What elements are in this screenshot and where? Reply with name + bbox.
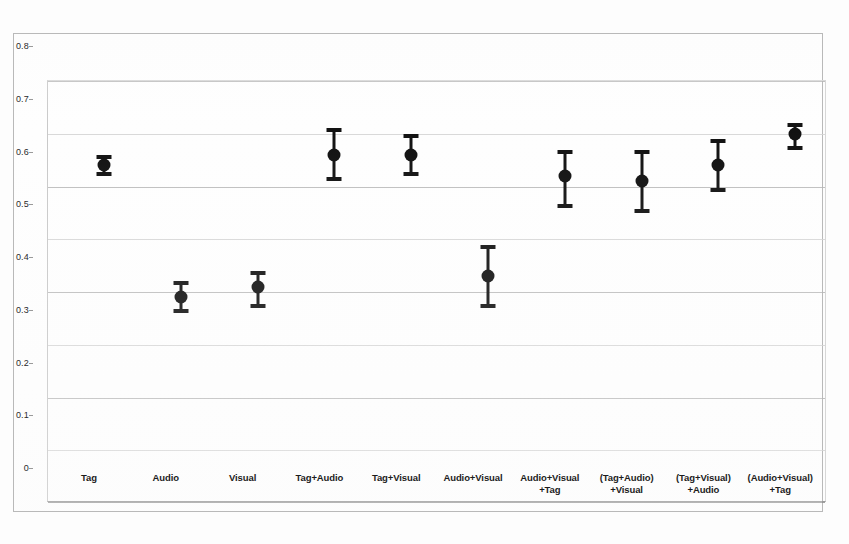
y-tick-label: 0.4 — [0, 252, 29, 262]
error-bar-cap-upper — [404, 134, 419, 138]
data-point-group — [557, 81, 573, 503]
y-tick-label: 0.6 — [0, 147, 29, 157]
x-tick-label: (Tag+Audio)+Visual — [585, 472, 669, 496]
error-bar-cap-lower — [327, 177, 342, 181]
data-series-layer — [48, 81, 825, 501]
error-bar-cap-upper — [250, 271, 265, 275]
error-bar-cap-lower — [404, 172, 419, 176]
x-tick-label-line2: +Tag — [738, 484, 822, 496]
error-bar-cap-upper — [481, 245, 496, 249]
y-tick-mark — [29, 310, 33, 311]
y-tick-mark — [29, 257, 33, 258]
x-tick-label-line1: Audio+Visual — [443, 472, 502, 483]
y-tick-label: 0 — [0, 463, 29, 473]
x-tick-label-line1: Tag+Audio — [296, 472, 344, 483]
x-tick-label: Tag — [47, 472, 131, 484]
mean-marker — [635, 175, 648, 188]
error-bar-cap-upper — [711, 139, 726, 143]
x-tick-label-line1: Tag+Visual — [372, 472, 421, 483]
error-bar-cap-lower — [173, 309, 188, 313]
y-axis: 00.10.20.30.40.50.60.70.8 — [0, 46, 29, 468]
error-bar-cap-upper — [634, 150, 649, 154]
error-bar-cap-lower — [788, 146, 803, 150]
x-tick-label-line1: (Tag+Visual) — [676, 472, 731, 483]
mean-marker — [174, 291, 187, 304]
x-axis: TagAudioVisualTag+AudioTag+VisualAudio+V… — [33, 472, 812, 510]
y-tick-mark — [29, 46, 33, 47]
error-bar-cap-lower — [634, 209, 649, 213]
data-point-group — [403, 81, 419, 503]
x-tick-label: Audio+Visual — [431, 472, 515, 484]
mean-marker — [712, 159, 725, 172]
plot-area — [47, 80, 826, 502]
error-bar-cap-lower — [711, 188, 726, 192]
x-tick-label-line2: +Visual — [585, 484, 669, 496]
error-bar-cap-lower — [97, 172, 112, 176]
data-point-group — [480, 81, 496, 503]
y-tick-mark — [29, 152, 33, 153]
mean-marker — [251, 280, 264, 293]
y-tick-mark — [29, 204, 33, 205]
data-point-group — [250, 81, 266, 503]
mean-marker — [482, 270, 495, 283]
x-tick-label-line1: Audio — [153, 472, 179, 483]
data-point-group — [787, 81, 803, 503]
x-tick-label-line1: Audio+Visual — [520, 472, 579, 483]
y-tick-label: 0.1 — [0, 410, 29, 420]
data-point-group — [96, 81, 112, 503]
data-point-group — [710, 81, 726, 503]
y-tick-mark — [29, 363, 33, 364]
x-tick-label-line1: Visual — [229, 472, 256, 483]
x-tick-label-line1: Tag — [81, 472, 97, 483]
error-bar-cap-upper — [173, 281, 188, 285]
data-point-group — [326, 81, 342, 503]
x-tick-label: Audio — [124, 472, 208, 484]
x-tick-label: Tag+Visual — [354, 472, 438, 484]
y-tick-label: 0.3 — [0, 305, 29, 315]
y-tick-mark — [29, 99, 33, 100]
error-bar-cap-lower — [481, 304, 496, 308]
x-tick-label-line2: +Tag — [508, 484, 592, 496]
y-tick-label: 0.5 — [0, 199, 29, 209]
x-tick-label: Audio+Visual+Tag — [508, 472, 592, 496]
y-tick-label: 0.8 — [0, 41, 29, 51]
error-bar-cap-upper — [327, 128, 342, 132]
y-tick-label: 0.2 — [0, 358, 29, 368]
x-tick-label: Visual — [201, 472, 285, 484]
data-point-group — [173, 81, 189, 503]
error-bar-cap-upper — [557, 150, 572, 154]
error-bar-cap-lower — [250, 304, 265, 308]
mean-marker — [98, 159, 111, 172]
x-tick-label-line1: (Tag+Audio) — [600, 472, 654, 483]
y-tick-mark — [29, 415, 33, 416]
data-point-group — [634, 81, 650, 503]
mean-marker — [789, 127, 802, 140]
y-tick-mark — [29, 468, 33, 469]
x-tick-label: (Audio+Visual)+Tag — [738, 472, 822, 496]
mean-marker — [405, 148, 418, 161]
error-bar-cap-lower — [557, 204, 572, 208]
mean-marker — [558, 169, 571, 182]
figure-frame — [13, 33, 823, 512]
mean-marker — [328, 148, 341, 161]
y-tick-label: 0.7 — [0, 94, 29, 104]
x-tick-label: (Tag+Visual)+Audio — [661, 472, 745, 496]
x-tick-label-line1: (Audio+Visual) — [748, 472, 813, 483]
x-tick-label: Tag+Audio — [277, 472, 361, 484]
x-tick-label-line2: +Audio — [661, 484, 745, 496]
